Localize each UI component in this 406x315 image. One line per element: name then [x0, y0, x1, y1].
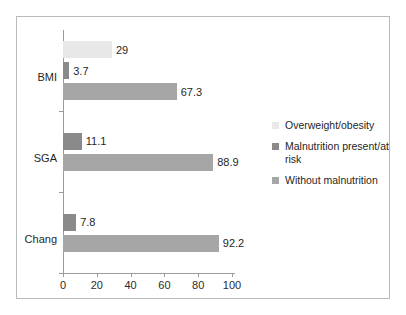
value-axis-tick	[198, 273, 199, 277]
legend-item[interactable]: Malnutrition present/at risk	[272, 140, 390, 166]
legend-swatch-without-malnutrition	[272, 177, 279, 184]
bar-value-label: 67.3	[181, 86, 202, 98]
bar[interactable]	[63, 214, 76, 231]
value-axis-tick	[63, 273, 64, 277]
bar-value-label: 7.8	[80, 216, 95, 228]
bar[interactable]	[63, 62, 69, 79]
legend-label-malnutrition: Malnutrition present/at risk	[285, 140, 390, 166]
value-axis-tick	[232, 273, 233, 277]
category-label-text: SGA	[34, 152, 57, 165]
value-axis-tick-label: 0	[60, 279, 66, 292]
legend-item[interactable]: Without malnutrition	[272, 174, 390, 187]
category-axis-tick	[59, 273, 63, 274]
bar-value-label: 92.2	[223, 237, 244, 249]
value-axis-tick	[164, 273, 165, 277]
legend-item[interactable]: Overweight/obesity	[272, 119, 390, 132]
bar-value-label: 11.1	[86, 135, 107, 147]
bar-value-label: 88.9	[217, 156, 238, 168]
chart-figure: 020406080100 BMISGAChang 293.767.311.188…	[0, 0, 406, 315]
bar[interactable]	[63, 235, 219, 252]
legend-swatch-malnutrition	[272, 143, 279, 150]
value-axis-tick-label: 20	[91, 279, 103, 292]
bar-value-label: 29	[116, 44, 128, 56]
value-axis-tick-label: 60	[158, 279, 170, 292]
value-axis-tick-label: 40	[124, 279, 136, 292]
category-label-text: BMI	[37, 71, 57, 84]
legend-label-overweight-obesity: Overweight/obesity	[285, 119, 374, 132]
bar[interactable]	[63, 41, 112, 58]
legend-label-without-malnutrition: Without malnutrition	[285, 174, 378, 187]
bar[interactable]	[63, 133, 82, 150]
bar-value-label: 3.7	[73, 65, 88, 77]
value-axis-tick	[131, 273, 132, 277]
value-axis-tick-label: 80	[192, 279, 204, 292]
chart-legend: Overweight/obesity Malnutrition present/…	[272, 119, 390, 195]
value-axis-tick	[97, 273, 98, 277]
category-label-text: Chang	[25, 233, 57, 246]
bar[interactable]	[63, 83, 177, 100]
value-axis-line	[63, 273, 235, 274]
bar[interactable]	[63, 154, 213, 171]
value-axis-tick-label: 100	[223, 279, 241, 292]
legend-swatch-overweight-obesity	[272, 122, 279, 129]
